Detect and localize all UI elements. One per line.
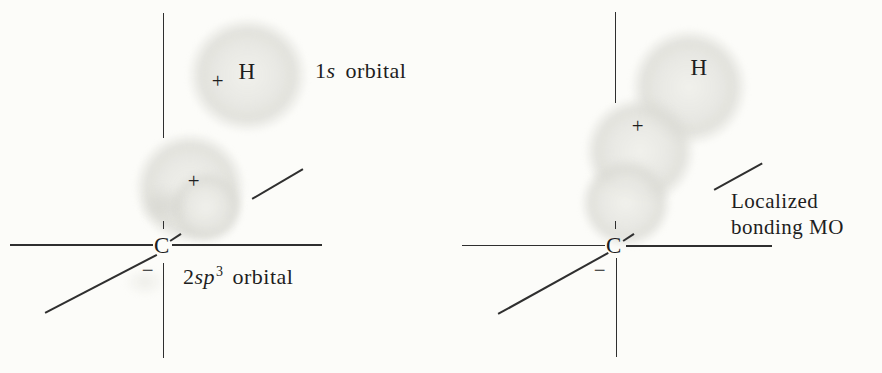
label-sp3-number: 2 bbox=[183, 264, 195, 289]
label-localized-bonding-mo: Localized bonding MO bbox=[731, 188, 844, 240]
label-sp3-superscript: 3 bbox=[216, 264, 224, 279]
left-minus-sign: − bbox=[142, 258, 154, 283]
left-plus-sign-sp3: + bbox=[188, 169, 200, 194]
left-horizontal-axis-left bbox=[10, 244, 153, 246]
right-vertical-axis-dash bbox=[615, 221, 617, 229]
left-carbon-label: C bbox=[154, 233, 170, 259]
label-1s-number: 1 bbox=[315, 58, 327, 83]
right-horizontal-axis-left bbox=[462, 245, 605, 247]
left-oblique-axis-upper bbox=[252, 168, 304, 199]
label-1s-rest: orbital bbox=[345, 58, 406, 83]
carbon-sp3-lobe-shading bbox=[140, 185, 186, 225]
label-2sp3-orbital: 2sp3orbital bbox=[183, 264, 293, 290]
label-1s-symbol: s bbox=[327, 58, 336, 83]
orbital-overlap-figure: C H + + − 1sorbital 2sp3orbital C H + − bbox=[0, 0, 882, 373]
right-minus-sign: − bbox=[594, 258, 606, 283]
label-sp3-rest: orbital bbox=[232, 264, 293, 289]
label-sp3-symbol: sp bbox=[195, 264, 216, 289]
right-hydrogen-label: H bbox=[690, 55, 707, 81]
mo-pointer-line bbox=[714, 162, 763, 190]
left-horizontal-axis-right bbox=[172, 244, 322, 246]
right-vertical-axis-lower bbox=[616, 258, 618, 357]
right-carbon-label: C bbox=[606, 233, 622, 259]
left-vertical-axis-lower bbox=[163, 263, 165, 358]
left-vertical-axis-upper bbox=[163, 13, 165, 138]
right-vertical-axis-upper bbox=[615, 12, 617, 103]
right-horizontal-axis-right bbox=[626, 245, 772, 247]
right-plus-sign: + bbox=[632, 114, 644, 139]
left-vertical-axis-dash bbox=[163, 221, 165, 229]
label-mo-line2: bonding MO bbox=[731, 214, 844, 240]
label-mo-line1: Localized bbox=[731, 188, 844, 214]
left-plus-sign-1s: + bbox=[212, 69, 224, 94]
label-1s-orbital: 1sorbital bbox=[315, 58, 406, 84]
left-hydrogen-label: H bbox=[238, 59, 255, 85]
bonding-mo-cloud-bottom bbox=[580, 158, 672, 248]
right-oblique-axis-lower bbox=[498, 252, 609, 314]
